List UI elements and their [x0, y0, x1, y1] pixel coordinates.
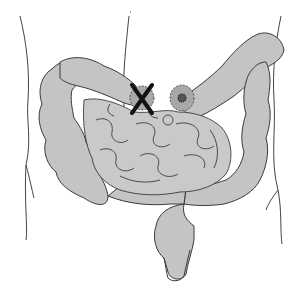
stoma-icon — [178, 94, 186, 102]
small-intestine — [83, 99, 230, 195]
sigmoid-colon — [154, 204, 194, 279]
transverse-colon-right — [60, 58, 140, 106]
intestine-diagram: Abdominal intestines illustration — [0, 0, 301, 291]
stoma-marker — [170, 85, 194, 111]
resection-marker — [130, 85, 154, 113]
